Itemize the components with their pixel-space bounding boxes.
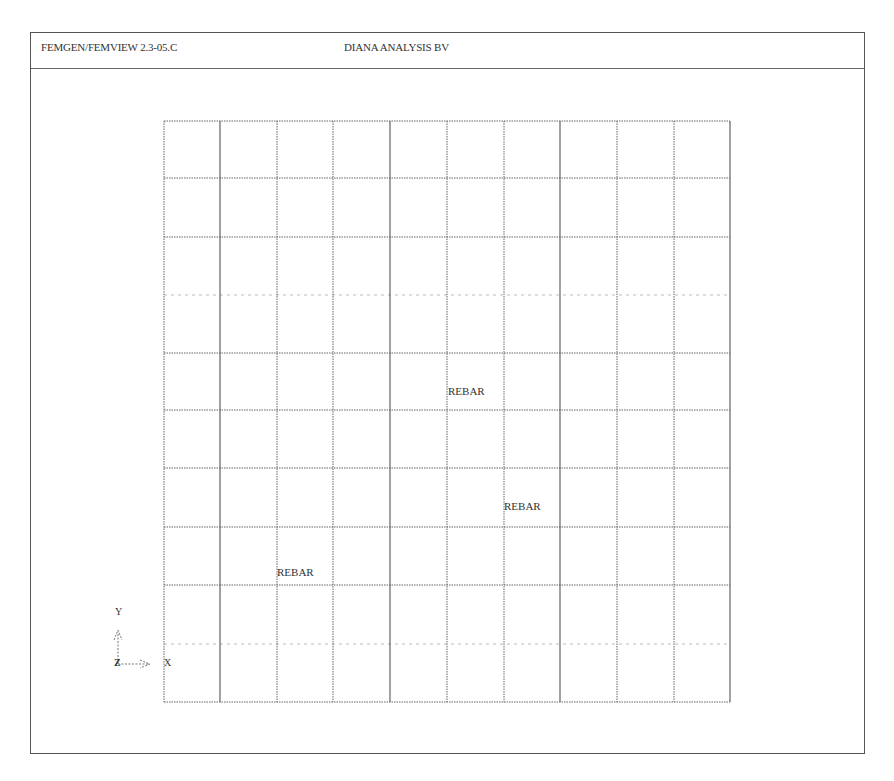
rebar-label: REBAR: [277, 566, 314, 578]
y-axis-label: Y: [115, 606, 122, 617]
mesh-grid-lines: [164, 121, 730, 702]
finite-element-mesh: [0, 0, 894, 781]
x-axis-label: X: [164, 657, 171, 668]
rebar-label: REBAR: [504, 500, 541, 512]
rebar-label: REBAR: [448, 385, 485, 397]
z-axis-label: Z: [114, 657, 121, 668]
